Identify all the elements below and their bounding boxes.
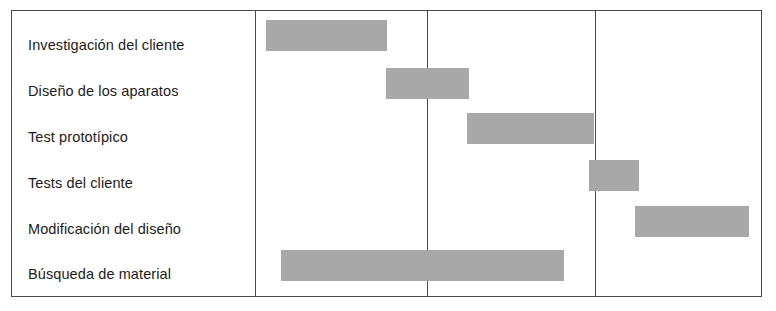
gantt-chart-figure: Investigación del cliente Diseño de los … xyxy=(0,0,776,311)
gantt-bar-tests-del-cliente xyxy=(589,160,639,191)
task-label-5: Búsqueda de material xyxy=(28,266,171,282)
gantt-bar-busqueda-de-material xyxy=(281,250,564,281)
task-label-1: Diseño de los aparatos xyxy=(28,83,179,99)
gantt-bar-diseno-de-los-aparatos xyxy=(386,68,469,99)
task-label-2: Test prototípico xyxy=(28,129,128,145)
task-label-column: Investigación del cliente Diseño de los … xyxy=(12,11,255,296)
gantt-plot-area xyxy=(256,11,761,296)
cropped-text-sliver xyxy=(18,0,438,7)
task-label-4: Modificación del diseño xyxy=(28,221,181,237)
task-label-0: Investigación del cliente xyxy=(28,37,184,53)
chart-frame: Investigación del cliente Diseño de los … xyxy=(11,10,762,297)
gantt-bar-investigacion-del-cliente xyxy=(266,20,387,51)
task-label-3: Tests del cliente xyxy=(28,175,133,191)
gantt-bar-modificacion-del-diseno xyxy=(635,206,749,237)
gantt-bar-test-prototipico xyxy=(467,113,594,144)
